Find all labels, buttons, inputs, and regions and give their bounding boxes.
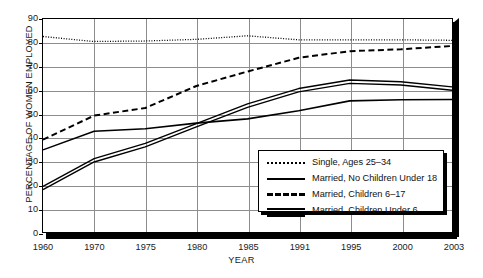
frame-shadow-right <box>453 22 459 237</box>
legend-swatch-solid-icon <box>267 173 305 184</box>
legend-label-married-children-6-17: Married, Children 6–17 <box>312 190 405 199</box>
legend-label-married-children-under-6: Married, Children Under 6 <box>312 206 418 215</box>
chart-figure: PERCENTAGE OF WOMEN EMPLOYED 01020304050… <box>0 0 483 278</box>
legend-item-married-children-under-6: Married, Children Under 6 <box>259 204 443 217</box>
x-tick-label: 1970 <box>84 243 104 252</box>
y-tick-label: 20 <box>28 182 38 191</box>
y-tick-label: 0 <box>33 229 38 238</box>
x-tick-label: 1991 <box>290 243 310 252</box>
x-tick-label: 2003 <box>444 243 464 252</box>
legend-swatch-dashed-icon <box>267 189 305 200</box>
y-tick-label: 90 <box>28 14 38 23</box>
legend-label-married-no-children: Married, No Children Under 18 <box>312 174 437 183</box>
y-tick-mark <box>39 234 43 235</box>
x-tick-label: 1985 <box>238 243 258 252</box>
frame-shadow-bottom <box>46 233 457 239</box>
x-tick-label: 2000 <box>392 243 412 252</box>
legend-item-married-no-children: Married, No Children Under 18 <box>259 172 443 185</box>
y-tick-label: 60 <box>28 86 38 95</box>
y-tick-label: 50 <box>28 110 38 119</box>
y-tick-label: 30 <box>28 158 38 167</box>
x-tick-label: 1980 <box>187 243 207 252</box>
x-tick-label: 1960 <box>33 243 53 252</box>
legend-swatch-dotted-icon <box>267 157 305 168</box>
y-tick-label: 80 <box>28 38 38 47</box>
chart-legend: Single, Ages 25–34 Married, No Children … <box>258 150 444 212</box>
y-tick-label: 70 <box>28 62 38 71</box>
legend-item-married-children-6-17: Married, Children 6–17 <box>259 188 443 201</box>
x-tick-label: 1995 <box>341 243 361 252</box>
x-tick-label: 1975 <box>136 243 156 252</box>
legend-label-single: Single, Ages 25–34 <box>312 158 391 167</box>
series-line <box>43 46 452 140</box>
y-tick-label: 40 <box>28 134 38 143</box>
legend-item-single: Single, Ages 25–34 <box>259 156 443 169</box>
y-tick-label: 10 <box>28 206 38 215</box>
series-line <box>43 36 452 42</box>
legend-swatch-double-icon <box>267 205 305 216</box>
x-axis-title: YEAR <box>0 255 483 265</box>
